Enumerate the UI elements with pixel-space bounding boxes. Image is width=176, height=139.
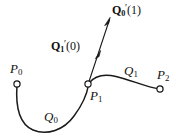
control-point-p2-marker	[157, 86, 163, 92]
label-p0: P0	[10, 62, 22, 75]
label-q1-derivative-symbol: Q	[51, 39, 60, 53]
diagram-canvas	[0, 0, 176, 139]
control-point-p1-marker	[85, 81, 91, 87]
label-p2-subscript: 2	[165, 73, 169, 83]
label-q0-derivative-symbol: Q	[112, 3, 121, 17]
label-p2-symbol: P	[157, 67, 165, 82]
label-curve-q1-subscript: 1	[133, 69, 137, 79]
tangent-arrowhead-mid	[95, 51, 100, 59]
label-p1-symbol: P	[90, 88, 98, 103]
label-p0-symbol: P	[10, 61, 18, 76]
label-q0-derivative-argument: (1)	[127, 3, 141, 17]
label-p0-subscript: 0	[18, 67, 22, 77]
label-q0-derivative: Q0′(1)	[112, 3, 141, 16]
label-curve-q0-symbol: Q	[44, 109, 53, 124]
tangent-line	[89, 20, 110, 84]
label-q1-derivative-argument: (0)	[66, 39, 80, 53]
label-curve-q0-subscript: 0	[53, 115, 57, 125]
label-curve-q1-symbol: Q	[124, 63, 133, 78]
label-curve-q1: Q1	[124, 64, 138, 77]
label-curve-q0: Q0	[44, 110, 58, 123]
curve-continuity-figure: Q0′(1) Q1′(0) P0 P1 P2 Q0 Q1	[0, 0, 176, 139]
tangent-arrowhead-tip	[105, 17, 111, 25]
control-point-p0-marker	[14, 81, 20, 87]
label-q1-derivative: Q1′(0)	[51, 39, 80, 52]
label-p2: P2	[157, 68, 169, 81]
label-p1-subscript: 1	[98, 94, 102, 104]
label-p1: P1	[90, 89, 102, 102]
